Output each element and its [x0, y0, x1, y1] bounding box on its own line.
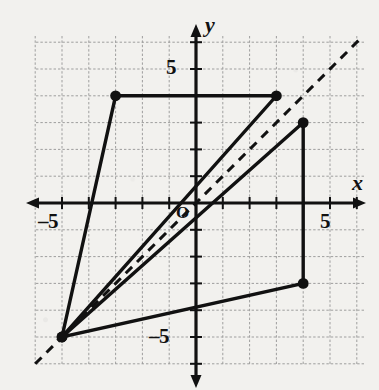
y-axis-tick-label-neg5: –5 — [149, 324, 169, 349]
y-axis-tick-label-5: 5 — [166, 55, 176, 80]
x-axis-tick-label-neg5: –5 — [38, 209, 58, 234]
x-axis-arrow-left — [26, 198, 39, 209]
y-axis-label: y — [205, 12, 215, 38]
x-axis-arrow-right — [353, 198, 366, 209]
x-axis-label: x — [352, 170, 363, 196]
vertex-point — [271, 90, 282, 101]
graph-canvas — [0, 0, 379, 390]
coordinate-plane-figure: 5 –5 –5 5 O x y — [0, 0, 379, 390]
origin-label: O — [176, 203, 189, 223]
vertex-point — [298, 117, 309, 128]
vertex-point — [298, 278, 309, 289]
y-axis-arrow-down — [191, 375, 202, 388]
y-axis-arrow-up — [191, 24, 202, 37]
vertex-point — [110, 90, 121, 101]
x-axis-tick-label-5: 5 — [320, 209, 330, 234]
vertex-point — [57, 332, 68, 343]
